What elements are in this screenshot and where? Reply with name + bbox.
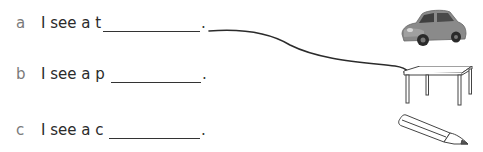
- item-sentence: I see a p: [41, 65, 105, 83]
- item-sentence: I see a c: [41, 121, 103, 139]
- sentence-period: .: [201, 14, 206, 32]
- answer-blank[interactable]: [109, 138, 200, 139]
- item-sentence: I see a t: [41, 14, 101, 32]
- answer-blank[interactable]: [111, 82, 201, 83]
- pencil-icon[interactable]: [396, 113, 476, 147]
- answer-blank[interactable]: [103, 31, 200, 32]
- item-letter: b: [16, 65, 26, 83]
- item-letter: a: [16, 14, 25, 32]
- car-icon[interactable]: [396, 6, 470, 50]
- table-icon[interactable]: [402, 66, 474, 106]
- sentence-period: .: [202, 65, 207, 83]
- sentence-period: .: [201, 121, 206, 139]
- item-letter: c: [16, 121, 24, 139]
